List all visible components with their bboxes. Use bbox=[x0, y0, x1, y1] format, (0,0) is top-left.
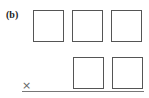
top-digit-box-3[interactable] bbox=[111, 10, 142, 42]
top-digit-box-2[interactable] bbox=[72, 10, 103, 42]
bottom-digit-box-1[interactable] bbox=[73, 57, 104, 89]
bottom-digit-box-2[interactable] bbox=[112, 57, 143, 89]
figure-label: (b) bbox=[6, 9, 18, 20]
top-digit-box-1[interactable] bbox=[33, 10, 64, 42]
result-line bbox=[22, 91, 144, 92]
